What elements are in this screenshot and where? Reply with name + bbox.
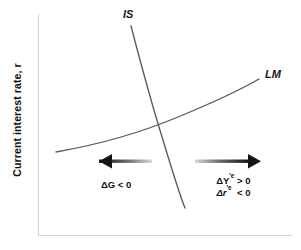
lm-curve-label: LM: [265, 68, 282, 80]
lm-curve: [56, 79, 259, 152]
leftward-shift-arrow: [99, 154, 152, 168]
is-curve-label: IS: [123, 8, 134, 20]
right-shift-line1-rest: > 0: [234, 175, 250, 186]
plot-canvas: IS LM ΔG < 0 ΔY′e > 0 Δr′e < 0: [0, 0, 301, 250]
is-lm-diagram: IS LM ΔG < 0 ΔY′e > 0 Δr′e < 0 Current i…: [0, 0, 301, 250]
right-shift-line2-rest: < 0: [232, 187, 251, 198]
y-axis-label: Current interest rate, r: [11, 63, 23, 176]
left-shift-label: ΔG < 0: [101, 179, 131, 190]
rightward-shift-arrow: [195, 154, 261, 168]
